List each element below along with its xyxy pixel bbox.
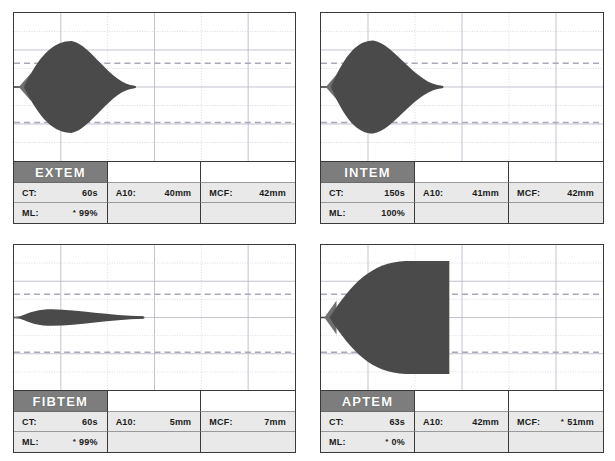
measurement-ct-aptem: CT: 63s	[321, 412, 415, 432]
measurement-ml-flag: *	[385, 437, 388, 446]
temogram-svg-aptem	[321, 245, 603, 390]
measurement-blank-1	[415, 432, 509, 452]
measurement-ct-value: 60s	[82, 188, 98, 198]
rotem-result-screen: EXTEM CT: 60s A10: 40mm	[0, 0, 615, 461]
assay-panel-extem[interactable]: EXTEM CT: 60s A10: 40mm	[0, 0, 307, 232]
assay-title-blank-1	[108, 162, 202, 183]
measurement-ml-extem: ML: *99%	[14, 203, 108, 223]
assay-title-blank-2	[201, 162, 295, 183]
assay-title-row: FIBTEM	[14, 391, 295, 412]
measurement-mcf-label: MCF:	[209, 417, 232, 427]
assay-title-blank-1	[415, 391, 509, 412]
results-row-primary: CT: 60s A10: 40mm MCF: 42mm	[14, 183, 295, 203]
measurement-ct-value: 60s	[82, 417, 98, 427]
measurement-blank-2	[509, 432, 603, 452]
measurement-ml-intem: ML: 100%	[321, 203, 415, 223]
assay-title-blank-2	[509, 162, 603, 183]
temogram-plot-fibtem	[14, 245, 295, 390]
measurement-ct-intem: CT: 150s	[321, 183, 415, 203]
results-table-extem: EXTEM CT: 60s A10: 40mm	[14, 161, 295, 223]
measurement-a10-aptem: A10: 42mm	[415, 412, 509, 432]
assay-title-blank-1	[415, 162, 509, 183]
measurement-a10-value: 42mm	[472, 417, 499, 427]
panel-grid: EXTEM CT: 60s A10: 40mm	[0, 0, 615, 461]
results-row-secondary: ML: *99%	[14, 432, 295, 452]
results-row-secondary: ML: *0%	[321, 432, 603, 452]
assay-name-intem: INTEM	[321, 162, 415, 183]
measurement-ml-label: ML:	[22, 437, 39, 447]
measurement-ml-value: 99%	[79, 437, 98, 447]
measurement-ct-value: 63s	[389, 417, 405, 427]
measurement-mcf-fibtem: MCF: 7mm	[201, 412, 295, 432]
measurement-mcf-intem: MCF: 42mm	[509, 183, 603, 203]
results-row-primary: CT: 63s A10: 42mm MCF: *51mm	[321, 412, 603, 432]
measurement-a10-intem: A10: 41mm	[415, 183, 509, 203]
temogram-plot-intem	[321, 13, 603, 161]
measurement-ct-label: CT:	[329, 417, 344, 427]
measurement-blank-2	[201, 432, 295, 452]
measurement-mcf-label: MCF:	[517, 417, 540, 427]
measurement-ml-value: 100%	[381, 208, 405, 218]
measurement-mcf-value: 51mm	[567, 417, 594, 427]
assay-title-blank-1	[108, 391, 202, 412]
measurement-mcf-value: 7mm	[264, 417, 286, 427]
measurement-blank-2	[201, 203, 295, 223]
measurement-a10-value: 40mm	[165, 188, 192, 198]
measurement-mcf-value: 42mm	[259, 188, 286, 198]
assay-title-row: INTEM	[321, 162, 603, 183]
measurement-a10-value: 5mm	[170, 417, 192, 427]
measurement-mcf-label: MCF:	[517, 188, 540, 198]
measurement-mcf-value: 42mm	[567, 188, 594, 198]
measurement-a10-extem: A10: 40mm	[108, 183, 202, 203]
temogram-svg-extem	[14, 13, 295, 161]
assay-panel-fibtem[interactable]: FIBTEM CT: 60s A10: 5mm	[0, 232, 307, 461]
measurement-mcf-label: MCF:	[209, 188, 232, 198]
results-table-fibtem: FIBTEM CT: 60s A10: 5mm	[14, 390, 295, 452]
measurement-blank-1	[108, 203, 202, 223]
temogram-plot-aptem	[321, 245, 603, 390]
measurement-blank-1	[108, 432, 202, 452]
results-table-aptem: APTEM CT: 63s A10: 42mm	[321, 390, 603, 452]
measurement-ct-value: 150s	[384, 188, 405, 198]
assay-panel-intem[interactable]: INTEM CT: 150s A10: 41mm	[307, 0, 615, 232]
measurement-ml-label: ML:	[329, 437, 346, 447]
measurement-a10-label: A10:	[423, 188, 443, 198]
results-row-primary: CT: 150s A10: 41mm MCF: 42mm	[321, 183, 603, 203]
measurement-a10-value: 41mm	[472, 188, 499, 198]
temogram-plot-extem	[14, 13, 295, 161]
measurement-ct-label: CT:	[22, 417, 37, 427]
measurement-ct-label: CT:	[22, 188, 37, 198]
measurement-ml-label: ML:	[22, 208, 39, 218]
temogram-svg-intem	[321, 13, 603, 161]
measurement-ct-label: CT:	[329, 188, 344, 198]
assay-name-aptem: APTEM	[321, 391, 415, 412]
measurement-blank-1	[415, 203, 509, 223]
assay-name-extem: EXTEM	[14, 162, 108, 183]
measurement-mcf-flag: *	[561, 417, 564, 426]
measurement-ct-extem: CT: 60s	[14, 183, 108, 203]
measurement-a10-label: A10:	[116, 188, 136, 198]
assay-title-row: APTEM	[321, 391, 603, 412]
assay-title-blank-2	[201, 391, 295, 412]
measurement-ml-value: 99%	[79, 208, 98, 218]
measurement-a10-fibtem: A10: 5mm	[108, 412, 202, 432]
measurement-ml-flag: *	[73, 437, 76, 446]
measurement-mcf-aptem: MCF: *51mm	[509, 412, 603, 432]
measurement-ml-flag: *	[73, 208, 76, 217]
results-row-primary: CT: 60s A10: 5mm MCF: 7mm	[14, 412, 295, 432]
assay-title-blank-2	[509, 391, 603, 412]
results-table-intem: INTEM CT: 150s A10: 41mm	[321, 161, 603, 223]
measurement-ml-value: 0%	[392, 437, 405, 447]
measurement-blank-2	[509, 203, 603, 223]
measurement-a10-label: A10:	[116, 417, 136, 427]
measurement-a10-label: A10:	[423, 417, 443, 427]
assay-title-row: EXTEM	[14, 162, 295, 183]
results-row-secondary: ML: *99%	[14, 203, 295, 223]
measurement-ml-fibtem: ML: *99%	[14, 432, 108, 452]
measurement-mcf-extem: MCF: 42mm	[201, 183, 295, 203]
assay-panel-aptem[interactable]: APTEM CT: 63s A10: 42mm	[307, 232, 615, 461]
results-row-secondary: ML: 100%	[321, 203, 603, 223]
measurement-ct-fibtem: CT: 60s	[14, 412, 108, 432]
measurement-ml-label: ML:	[329, 208, 346, 218]
measurement-ml-aptem: ML: *0%	[321, 432, 415, 452]
